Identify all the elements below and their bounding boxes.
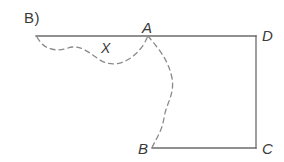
vertex-label-d: D xyxy=(262,28,273,43)
curve-upper-loop-curve xyxy=(37,36,148,64)
vertex-label-b: B xyxy=(138,141,148,156)
panel-label: B) xyxy=(24,10,40,25)
vertex-label-a: A xyxy=(142,20,152,35)
curve-lower-boundary-curve xyxy=(148,36,173,148)
solid-edges-group xyxy=(36,36,256,148)
region-label-x: X xyxy=(101,41,110,55)
vertex-label-c: C xyxy=(262,141,273,156)
figure-container: B) X ADCB xyxy=(0,0,284,162)
